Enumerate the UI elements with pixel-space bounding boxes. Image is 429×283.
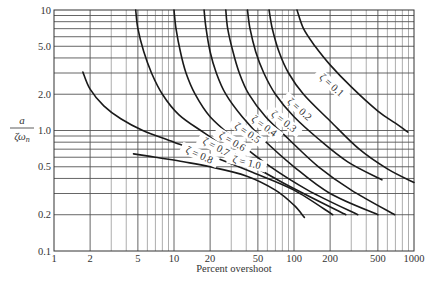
curves	[83, 10, 414, 217]
curve-labels: ζ = 0.1ζ = 0.2ζ = 0.3ζ = 0.4ζ = 0.5ζ = 0…	[179, 68, 350, 173]
x-axis-label: Percent overshoot	[196, 263, 272, 274]
y-axis-label: a ζωn	[10, 114, 34, 144]
y-tick-label: 2.0	[38, 89, 51, 100]
x-tick-label: 2	[87, 253, 92, 264]
curve-1.0	[134, 154, 305, 218]
y-axis-label-denominator: ζωn	[14, 130, 30, 144]
x-tick-label: 1000	[404, 253, 425, 264]
y-tick-label: 0.1	[38, 246, 51, 257]
y-axis-label-numerator: a	[19, 114, 25, 126]
y-tick-label: 0.5	[38, 161, 51, 172]
y-tick-label: 0.2	[38, 209, 51, 220]
x-tick-label: 1	[51, 253, 56, 264]
x-tick-label: 200	[322, 253, 338, 264]
y-tick-label: 10	[41, 5, 52, 16]
gridlines	[54, 10, 414, 251]
x-tick-label: 100	[286, 253, 302, 264]
y-axis-ticks: 0.10.20.51.02.05.010	[38, 5, 51, 257]
curve-label: ζ = 0.1	[317, 71, 346, 99]
x-tick-label: 10	[169, 253, 180, 264]
x-tick-label: 500	[370, 253, 386, 264]
y-tick-label: 1.0	[38, 125, 51, 136]
x-tick-label: 5	[135, 253, 140, 264]
curve-0.7	[136, 10, 346, 215]
chart: ζ = 0.1ζ = 0.2ζ = 0.3ζ = 0.4ζ = 0.5ζ = 0…	[0, 0, 429, 283]
y-tick-label: 5.0	[38, 41, 51, 52]
